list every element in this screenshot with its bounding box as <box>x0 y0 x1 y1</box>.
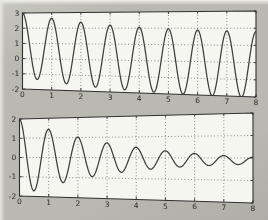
x-tick-label: 0 <box>17 197 22 206</box>
y-tick-label: -2 <box>12 85 20 94</box>
x-tick-label: 3 <box>105 200 110 209</box>
x-tick-label: 0 <box>20 90 25 99</box>
x-tick-label: 4 <box>137 94 142 103</box>
x-tick-label: 3 <box>108 93 113 102</box>
x-tick-label: 8 <box>254 98 259 107</box>
y-tick-label: 0 <box>15 54 20 63</box>
x-tick-label: 2 <box>75 199 80 208</box>
top-plot: 0123456783210-1-2 <box>12 9 259 108</box>
x-tick-label: 7 <box>224 97 229 106</box>
x-tick-label: 5 <box>166 95 171 104</box>
y-tick-label: 1 <box>15 39 20 48</box>
y-tick-label: 1 <box>12 134 17 143</box>
x-tick-label: 2 <box>78 92 83 101</box>
y-tick-label: -1 <box>9 172 17 181</box>
y-tick-label: -2 <box>9 192 17 201</box>
x-tick-label: 8 <box>251 204 256 213</box>
bottom-plot: 012345678210-1-2 <box>9 113 256 213</box>
x-tick-label: 6 <box>195 96 200 105</box>
x-tick-label: 5 <box>163 202 168 211</box>
x-tick-label: 1 <box>49 91 54 100</box>
y-tick-label: 2 <box>15 24 20 33</box>
plots-group: 0123456783210-1-2012345678210-1-2 <box>9 9 259 214</box>
scanned-page: 0123456783210-1-2012345678210-1-2 <box>0 0 268 220</box>
x-tick-label: 4 <box>134 201 139 210</box>
x-tick-label: 7 <box>221 203 226 212</box>
y-tick-label: 0 <box>12 153 17 162</box>
x-tick-label: 1 <box>46 198 51 207</box>
y-tick-label: -1 <box>12 69 20 78</box>
oscillation-charts-canvas: 0123456783210-1-2012345678210-1-2 <box>0 0 268 220</box>
y-tick-label: 3 <box>15 9 20 18</box>
x-tick-label: 6 <box>192 202 197 211</box>
y-tick-label: 2 <box>12 115 17 124</box>
